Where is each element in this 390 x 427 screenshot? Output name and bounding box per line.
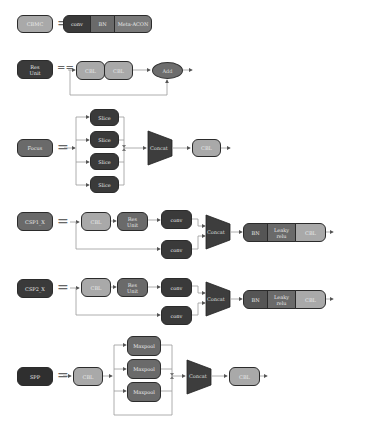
csp1-bn-block: BN <box>243 223 268 242</box>
csp1-leaky-relu-block: Leaky relu <box>267 223 296 242</box>
focus-cbl-block: CBL <box>192 139 221 157</box>
csp1-label-block: CSP1_X <box>17 212 53 231</box>
cbmc-label-block: CBMC <box>17 15 53 33</box>
csp1-conv-block: conv <box>161 210 192 229</box>
csp2-label-block: CSP2_X <box>17 279 53 298</box>
concat-label: Concat <box>207 229 225 235</box>
csp2-bn-block: BN <box>243 290 268 309</box>
focus-label-block: Focus <box>17 139 53 157</box>
spp-cbl-input-block: CBL <box>73 367 103 386</box>
equals-sign: = <box>57 368 69 382</box>
csp2-res-unit-block: Res Unit <box>117 278 148 297</box>
spp-label-block: SPP <box>17 367 53 386</box>
equals-sign: == <box>57 61 74 75</box>
res-unit-cbl-block-1: CBL <box>76 61 105 80</box>
maxpool-block-1: Maxpool <box>127 336 161 356</box>
maxpool-block-3: Maxpool <box>127 382 161 402</box>
csp2-cbl-tail-block: CBL <box>295 290 326 309</box>
res-unit-cbl-block-2: CBL <box>104 61 133 80</box>
cbmc-conv-block: conv <box>63 15 91 33</box>
csp1-cbl-tail-block: CBL <box>295 223 326 242</box>
slice-block-2: Slice <box>90 131 119 148</box>
csp2-conv-block: conv <box>161 278 192 297</box>
maxpool-block-2: Maxpool <box>127 359 161 379</box>
slice-block-1: Slice <box>90 109 119 126</box>
equals-sign: = <box>57 280 69 294</box>
csp2-bypass-conv-block: conv <box>161 306 192 325</box>
equals-sign: = <box>57 140 69 154</box>
res-unit-label-block: Res Unit <box>17 60 53 79</box>
spp-cbl-output-block: CBL <box>229 367 260 386</box>
cbmc-bn-block: BN <box>90 15 115 33</box>
csp1-cbl-block: CBL <box>81 212 111 231</box>
concat-label: Concat <box>207 296 225 302</box>
concat-label: Concat <box>189 373 207 379</box>
cbmc-meta-acon-block: Meta-ACON <box>114 15 152 33</box>
concat-label: Concat <box>150 145 168 151</box>
slice-block-4: Slice <box>90 176 119 193</box>
slice-block-3: Slice <box>90 153 119 170</box>
csp1-bypass-conv-block: conv <box>161 240 192 259</box>
csp2-leaky-relu-block: Leaky relu <box>267 290 296 309</box>
add-node: Add <box>152 62 183 79</box>
csp1-res-unit-block: Res Unit <box>117 212 148 231</box>
equals-sign: = <box>57 214 69 228</box>
csp2-cbl-block: CBL <box>81 278 111 297</box>
